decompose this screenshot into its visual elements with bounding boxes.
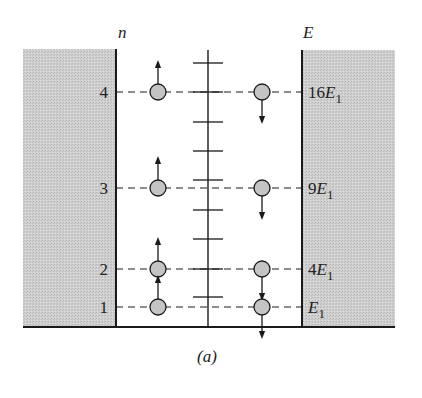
particle-circle-icon bbox=[254, 299, 270, 315]
left-particle-spin-up bbox=[150, 279, 166, 315]
right-particle-spin-down bbox=[254, 84, 270, 120]
quantum-number-label: 2 bbox=[100, 260, 109, 279]
e-axis-label: E bbox=[302, 23, 314, 42]
left-particle-spin-up bbox=[150, 241, 166, 277]
right-particle-spin-down bbox=[254, 180, 270, 216]
energy-level-diagram: 416E139E124E11E1 n E (a) bbox=[0, 0, 422, 398]
quantum-number-label: 3 bbox=[100, 179, 109, 198]
particle-circle-icon bbox=[254, 261, 270, 277]
left-particle-spin-up bbox=[150, 64, 166, 100]
particle-circle-icon bbox=[254, 180, 270, 196]
quantum-number-label: 1 bbox=[100, 298, 109, 317]
n-axis-label: n bbox=[118, 23, 127, 42]
particle-circle-icon bbox=[150, 84, 166, 100]
right-particle-spin-down bbox=[254, 261, 270, 297]
particle-circle-icon bbox=[150, 180, 166, 196]
right-particle-spin-down bbox=[254, 299, 270, 335]
particle-circle-icon bbox=[150, 261, 166, 277]
particle-circle-icon bbox=[150, 299, 166, 315]
left-particle-spin-up bbox=[150, 160, 166, 196]
quantum-number-label: 4 bbox=[100, 83, 109, 102]
energy-level-2: 24E1 bbox=[100, 241, 334, 297]
particle-circle-icon bbox=[254, 84, 270, 100]
energy-level-3: 39E1 bbox=[100, 160, 334, 216]
figure-caption: (a) bbox=[197, 347, 217, 366]
